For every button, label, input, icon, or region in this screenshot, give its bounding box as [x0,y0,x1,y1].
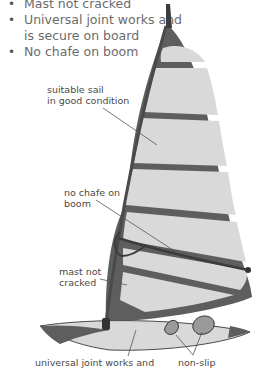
label-boom: no chafe on boom [64,187,120,209]
sail-panel-1 [161,46,205,62]
label-mast: mast not cracked [59,266,101,288]
label-non-slip: non-slip [178,357,216,368]
label-universal-joint: universal joint works and [35,357,154,368]
sail-panel-3 [134,118,227,166]
label-sail: suitable sail in good condition [47,84,129,106]
windsurfer-illustration [0,0,263,369]
mast-tip [166,4,172,28]
sail-panel-2 [143,68,218,115]
universal-joint [102,318,110,330]
